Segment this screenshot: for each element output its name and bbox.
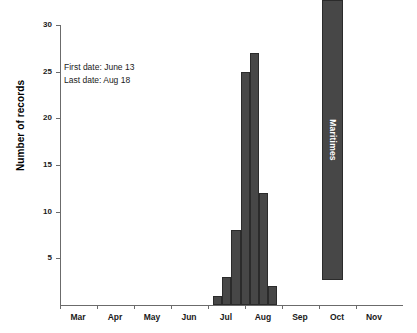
y-tick-label-20-wrap: 20	[24, 114, 52, 124]
x-tick-nov	[356, 305, 357, 309]
x-tick-jul	[208, 305, 209, 309]
x-tick-aug	[245, 305, 246, 309]
region-panel-bar: Maritimes	[322, 0, 343, 280]
y-tick-label-15: 15	[28, 161, 52, 169]
x-tick-mar	[60, 305, 61, 309]
histogram-bar	[268, 286, 277, 305]
y-tick-label-30-wrap: 30	[24, 21, 52, 31]
x-tick-label-jun: Jun	[169, 312, 209, 322]
histogram-bar	[259, 193, 268, 305]
histogram-bar	[213, 296, 222, 305]
y-tick-label-25: 25	[28, 68, 52, 76]
x-tick-label-apr: Apr	[95, 312, 135, 322]
x-tick-label-jul: Jul	[206, 312, 246, 322]
bars-layer	[60, 25, 403, 305]
y-tick-label-5: 5	[28, 254, 52, 262]
histogram-bar	[222, 277, 231, 305]
x-tick-label-nov: Nov	[354, 312, 394, 322]
y-tick-label-5-wrap: 5	[24, 254, 52, 264]
histogram-chart: Number of records 30 25 20 15 10 5 Mar A…	[0, 0, 417, 333]
histogram-bar	[250, 53, 259, 305]
x-tick-label-aug: Aug	[243, 312, 283, 322]
x-tick-label-may: May	[132, 312, 172, 322]
y-tick-label-20: 20	[28, 114, 52, 122]
region-panel-label: Maritimes	[328, 119, 338, 160]
x-tick-oct	[319, 305, 320, 309]
x-tick-label-oct: Oct	[317, 312, 357, 322]
x-tick-label-sep: Sep	[280, 312, 320, 322]
x-tick-apr	[97, 305, 98, 309]
x-axis-line	[60, 305, 403, 306]
y-tick-label-10-wrap: 10	[24, 208, 52, 218]
y-tick-label-10: 10	[28, 208, 52, 216]
x-tick-jun	[171, 305, 172, 309]
x-tick-may	[134, 305, 135, 309]
histogram-bar	[231, 230, 240, 305]
y-tick-label-30: 30	[28, 21, 52, 29]
x-tick-label-mar: Mar	[58, 312, 98, 322]
y-tick-label-25-wrap: 25	[24, 68, 52, 78]
x-tick-sep	[282, 305, 283, 309]
histogram-bar	[241, 72, 250, 305]
y-tick-label-15-wrap: 15	[24, 161, 52, 171]
